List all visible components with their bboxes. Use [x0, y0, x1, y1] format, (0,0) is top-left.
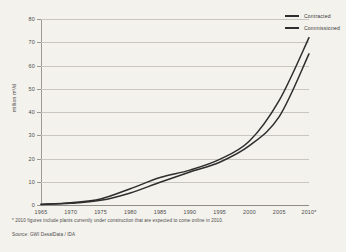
series-line-commissioned [41, 54, 309, 205]
x-axis-tick-label: 2000 [243, 209, 256, 215]
x-axis-tick-label: 2010* [301, 209, 316, 215]
y-axis-tick-label: 60 [29, 63, 35, 69]
x-axis-tick-label: 1970 [64, 209, 77, 215]
y-axis-tick-label: 70 [29, 39, 35, 45]
y-axis-tick-label: 80 [29, 16, 35, 22]
y-axis-tick-label: 50 [29, 86, 35, 92]
x-axis-tick-label: 1985 [154, 209, 167, 215]
y-axis-tick-label: 30 [29, 132, 35, 138]
x-axis-tick-label: 1990 [183, 209, 196, 215]
y-axis-tick-label: 40 [29, 109, 35, 115]
chart-source: Source: GWI DesalData / IDA [12, 232, 75, 237]
plot-area: 01020304050607080 1965197019751980198519… [41, 19, 309, 205]
y-axis-tick-label: 10 [29, 179, 35, 185]
y-axis-tick-label: 20 [29, 156, 35, 162]
y-axis-title: million m³/d [11, 84, 17, 112]
legend-item-commissioned[interactable]: Commissioned [285, 25, 340, 31]
y-tick-0 [37, 205, 41, 206]
legend-swatch-contracted [285, 15, 299, 17]
x-axis-tick-label: 1965 [35, 209, 48, 215]
y-axis-tick-label: 0 [32, 202, 35, 208]
gridline-0: 0 [41, 205, 309, 206]
desalination-capacity-chart: million m³/d 01020304050607080 196519701… [0, 0, 346, 252]
legend-label-commissioned: Commissioned [304, 25, 340, 31]
x-axis-tick-label: 1975 [94, 209, 107, 215]
series-line-contracted [41, 38, 309, 205]
x-axis-tick-label: 1980 [124, 209, 137, 215]
legend-item-contracted[interactable]: Contracted [285, 13, 340, 19]
legend-label-contracted: Contracted [304, 13, 331, 19]
chart-legend: Contracted Commissioned [285, 13, 340, 31]
legend-swatch-commissioned [285, 27, 299, 29]
series-lines [41, 19, 309, 205]
chart-footnote: * 2010 figures include plants currently … [12, 218, 223, 223]
x-axis-tick-label: 2005 [273, 209, 286, 215]
x-axis-tick-label: 1995 [213, 209, 226, 215]
